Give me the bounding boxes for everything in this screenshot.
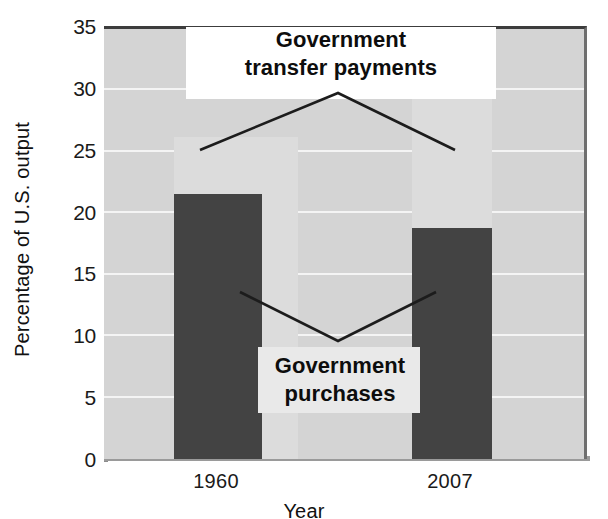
transfer-payments-callout: Government transfer payments — [176, 26, 506, 81]
y-tick-5: 5 — [85, 387, 96, 408]
chart-figure: 35 30 25 20 15 10 5 0 G — [0, 0, 608, 519]
y-tick-30: 30 — [73, 77, 96, 98]
y-tick-0: 0 — [85, 449, 96, 470]
transfer-callout-line-1: Government — [176, 26, 506, 54]
y-axis-tick-labels: 35 30 25 20 15 10 5 0 — [52, 26, 96, 459]
y-tick-35: 35 — [73, 16, 96, 37]
x-axis-title: Year — [0, 500, 608, 519]
purchases-callout: Government purchases — [240, 352, 440, 407]
y-tick-20: 20 — [73, 201, 96, 222]
transfer-callout-line-2: transfer payments — [176, 54, 506, 82]
purchases-callout-line-1: Government — [240, 352, 440, 380]
y-tick-25: 25 — [73, 139, 96, 160]
x-tick-2007: 2007 — [392, 470, 508, 493]
bar-2007-purchases — [412, 228, 492, 459]
x-tick-1960: 1960 — [158, 470, 274, 493]
y-axis-title: Percentage of U.S. output — [11, 60, 34, 420]
y-tick-10: 10 — [73, 325, 96, 346]
bar-1960-purchases — [174, 194, 262, 459]
purchases-callout-line-2: purchases — [240, 380, 440, 408]
y-tick-15: 15 — [73, 263, 96, 284]
